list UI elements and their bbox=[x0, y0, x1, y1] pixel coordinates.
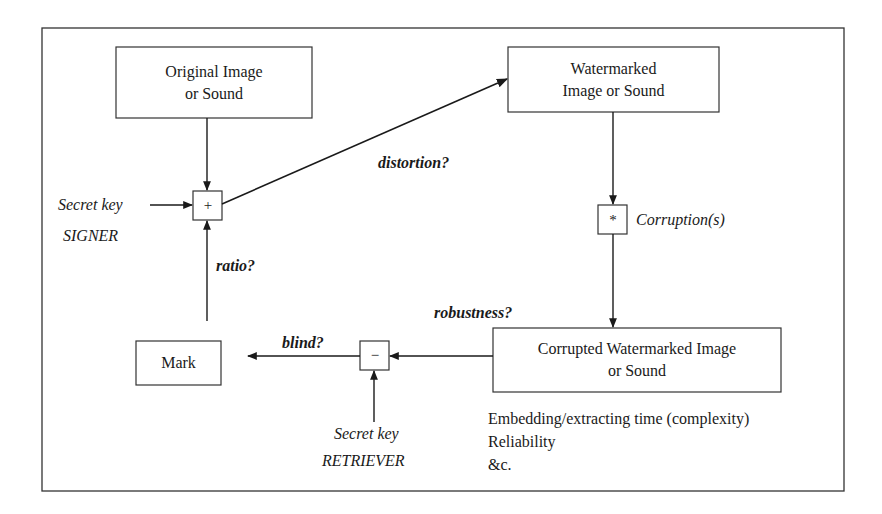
blind-question: blind? bbox=[282, 335, 324, 351]
notes-list: Embedding/extracting time (complexity) R… bbox=[488, 407, 749, 476]
watermarked-line2: Image or Sound bbox=[562, 80, 664, 102]
plus-operator: + bbox=[194, 191, 222, 219]
note-item: Reliability bbox=[488, 430, 749, 453]
note-item: Embedding/extracting time (complexity) bbox=[488, 407, 749, 430]
corrupted-line2: or Sound bbox=[608, 360, 666, 382]
secret-key-retriever-label: Secret key bbox=[334, 426, 399, 442]
mark-label: Mark bbox=[161, 352, 196, 374]
corrupted-node: Corrupted Watermarked Image or Sound bbox=[493, 328, 781, 392]
star-operator: * bbox=[599, 206, 627, 234]
mark-node: Mark bbox=[136, 341, 221, 385]
watermarked-node: Watermarked Image or Sound bbox=[508, 47, 719, 112]
signer-label: SIGNER bbox=[63, 228, 118, 244]
minus-operator: − bbox=[361, 341, 389, 369]
robustness-question: robustness? bbox=[434, 305, 512, 321]
retriever-label: RETRIEVER bbox=[322, 453, 405, 469]
distortion-question: distortion? bbox=[378, 155, 449, 171]
corruptions-label: Corruption(s) bbox=[636, 212, 725, 228]
secret-key-signer-label: Secret key bbox=[58, 197, 123, 213]
corrupted-line1: Corrupted Watermarked Image bbox=[538, 338, 736, 360]
ratio-question: ratio? bbox=[216, 258, 255, 274]
original-node: Original Image or Sound bbox=[116, 47, 312, 118]
note-item: &c. bbox=[488, 453, 749, 476]
original-line1: Original Image bbox=[165, 61, 262, 83]
original-line2: or Sound bbox=[185, 83, 243, 105]
watermarked-line1: Watermarked bbox=[571, 58, 657, 80]
